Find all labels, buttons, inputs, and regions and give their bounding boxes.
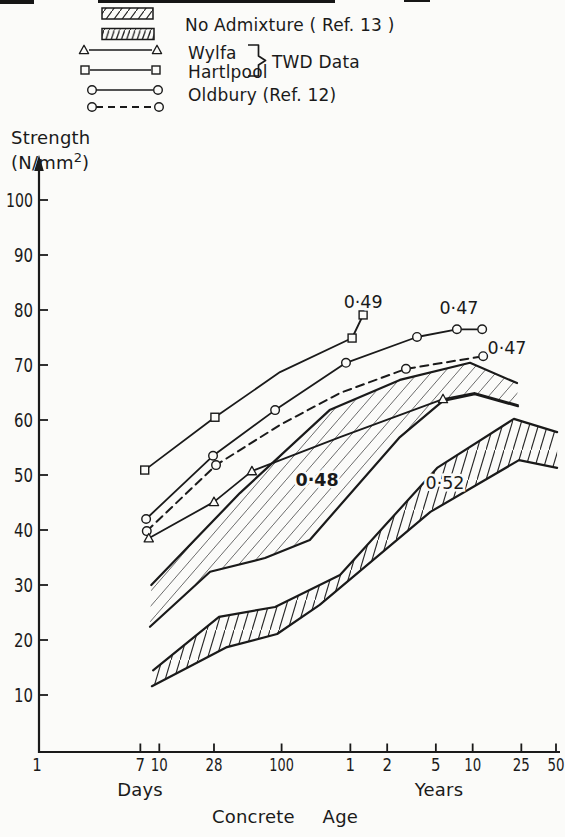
x-tick-label: 100 <box>269 754 294 775</box>
chart-canvas: 1009080706050403020101710281001251025500… <box>0 0 565 837</box>
x-tick-label: 2 <box>382 754 392 775</box>
y-tick-label: 20 <box>14 628 33 652</box>
legend-swatch-band-0-48 <box>102 8 153 19</box>
x-axis-title: Concrete Age <box>212 806 358 827</box>
legend-wylfa-label: Wylfa <box>188 43 237 63</box>
x-tick-label: 50 <box>548 754 565 775</box>
legend-hartlepool-label: Hartlpool <box>188 62 268 82</box>
triangle-marker <box>152 45 161 53</box>
y-axis-title-word: Strength <box>11 127 90 148</box>
x-tick-label: 1 <box>32 754 42 775</box>
y-axis-unit-sup: 2 <box>74 150 82 165</box>
y-tick-label: 40 <box>14 518 33 542</box>
circle-marker <box>402 365 411 374</box>
y-axis-title: Strength (N/mm2) <box>11 128 90 173</box>
circle-marker <box>271 406 280 415</box>
x-tick-label: 28 <box>205 754 222 775</box>
circle-marker <box>478 325 487 334</box>
scan-artifact <box>0 0 34 4</box>
x-tick-label: 1 <box>346 754 356 775</box>
x-tick-label: 5 <box>431 754 441 775</box>
square-marker <box>141 466 149 474</box>
y-axis-unit-close: ) <box>82 152 89 173</box>
wc-ratio-annotation: 0·47 <box>488 338 527 358</box>
triangle-marker <box>79 45 88 53</box>
scan-artifact <box>98 0 335 3</box>
square-marker <box>348 334 356 342</box>
x-tick-label: 7 <box>136 754 146 775</box>
square-marker <box>211 413 219 421</box>
y-tick-label: 30 <box>14 573 33 597</box>
circle-marker <box>88 86 97 95</box>
circle-marker <box>88 103 97 112</box>
y-tick-label: 90 <box>14 243 33 267</box>
y-tick-label: 80 <box>14 298 33 322</box>
square-marker <box>81 66 89 74</box>
circle-marker <box>142 515 151 524</box>
x-axis-years-label: Years <box>414 779 464 800</box>
circle-marker <box>413 333 422 342</box>
wc-ratio-annotation: 0·47 <box>439 298 478 318</box>
circle-marker <box>479 352 488 361</box>
circle-marker <box>212 461 221 470</box>
legend-oldbury-label: Oldbury (Ref. 12) <box>188 85 336 105</box>
y-axis-unit-open: (N/mm <box>11 152 74 173</box>
circle-marker <box>209 451 218 460</box>
x-tick-label: 10 <box>464 754 481 775</box>
x-tick-label: 25 <box>513 754 530 775</box>
wc-ratio-annotation: 0·52 <box>426 473 465 493</box>
wc-ratio-annotation: 0·48 <box>295 470 338 490</box>
y-tick-label: 60 <box>14 408 33 432</box>
legend-twd-label: TWD Data <box>272 52 360 72</box>
legend-swatch-band-0-52 <box>102 29 154 40</box>
x-tick-label: 10 <box>151 754 168 775</box>
circle-marker <box>154 86 163 95</box>
y-tick-label: 100 <box>6 188 33 212</box>
strength-vs-age-figure: 1009080706050403020101710281001251025500… <box>0 0 565 837</box>
square-marker <box>152 66 160 74</box>
legend-no-admixture-label: No Admixture ( Ref. 13 ) <box>185 15 394 35</box>
square-marker <box>359 311 367 319</box>
circle-marker <box>453 325 462 334</box>
scan-artifact <box>404 0 430 2</box>
y-tick-label: 70 <box>14 353 33 377</box>
circle-marker <box>342 359 351 368</box>
y-tick-label: 50 <box>14 463 33 487</box>
circle-marker <box>155 103 164 112</box>
wc-ratio-annotation: 0·49 <box>344 292 383 312</box>
x-axis-days-label: Days <box>115 779 165 800</box>
y-tick-label: 10 <box>14 683 33 707</box>
